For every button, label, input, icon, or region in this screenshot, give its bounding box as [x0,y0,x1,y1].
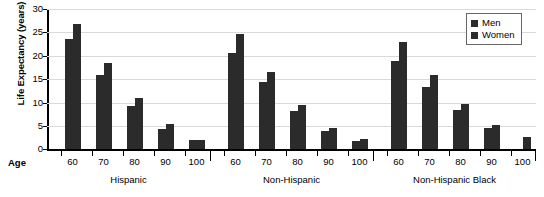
y-axis-tick-label: 25 [32,28,43,38]
x-axis-tick-label: 60 [393,157,404,167]
bar-men [453,110,461,150]
x-axis-tick-mark [255,151,256,156]
life-expectancy-bar-chart: Life Expectancy (years) 051015202530 Age… [0,0,544,197]
bars-layer [47,9,536,149]
bar-women [236,34,244,150]
bar-men [321,131,329,150]
x-axis-tick-mark [511,151,512,156]
bar-women [523,137,531,149]
bar-women [360,139,368,149]
x-axis-tick-mark [61,151,62,156]
bar-women [73,24,81,149]
bar-men [189,140,197,150]
legend-item-men: Men [471,17,515,29]
y-axis-tick-label: 30 [32,4,43,14]
bar-men [391,61,399,150]
x-axis-tick-label: 100 [515,157,531,167]
legend-swatch-icon [471,32,478,39]
bar-men [127,106,135,150]
group-separator [210,151,211,161]
group-separator [373,151,374,161]
group-label: Non-Hispanic [263,175,320,185]
x-axis-tick-mark [387,151,388,156]
x-axis-tick-label: 90 [323,157,334,167]
group-label: Hispanic [110,175,146,185]
group-label: Non-Hispanic Black [413,175,496,185]
x-axis-tick-mark [224,151,225,156]
x-axis-tick-mark [185,151,186,156]
bar-men [484,128,492,150]
x-axis-tick-label: 90 [160,157,171,167]
bar-women [104,63,112,150]
bar-men [96,75,104,150]
x-axis-tick-mark [286,151,287,156]
x-axis-tick-label: 80 [129,157,140,167]
legend-label-men: Men [482,18,500,28]
legend: Men Women [466,13,522,45]
y-axis-tick-label: 20 [32,51,43,61]
bar-men [158,129,166,149]
x-axis-tick-mark [348,151,349,156]
x-axis-tick-label: 100 [352,157,368,167]
bar-men [65,39,73,149]
bar-women [399,42,407,150]
x-axis-tick-label: 80 [455,157,466,167]
bar-women [298,105,306,149]
plot-area: 051015202530 [47,9,536,151]
bar-women [135,98,143,149]
x-axis-area: 60708090100Hispanic60708090100Non-Hispan… [47,151,536,197]
x-axis-tick-label: 70 [261,157,272,167]
legend-label-women: Women [482,30,515,40]
x-axis-tick-label: 60 [230,157,241,167]
bar-women [329,128,337,149]
x-axis-tick-label: 60 [67,157,78,167]
bar-men [422,87,430,150]
bar-women [492,125,500,150]
x-axis-tick-mark [123,151,124,156]
x-axis-tick-label: 80 [292,157,303,167]
bar-women [197,140,205,150]
y-axis-title: Life Expectancy (years) [15,0,26,119]
y-axis-tick-label: 15 [32,74,43,84]
x-axis-tick-label: 90 [486,157,497,167]
x-axis-tick-mark [480,151,481,156]
x-axis-tick-label: 70 [424,157,435,167]
bar-women [461,104,469,149]
bar-men [259,82,267,150]
bar-men [352,141,360,149]
bar-women [166,124,174,149]
x-axis-tick-mark [154,151,155,156]
x-axis-tick-mark [92,151,93,156]
x-axis-tick-mark [317,151,318,156]
x-axis-tick-mark [418,151,419,156]
bar-women [267,72,275,149]
group-separator [535,151,536,161]
x-axis-tick-mark [449,151,450,156]
bar-women [430,75,438,150]
x-axis-title: Age [8,157,26,168]
bar-men [290,111,298,150]
x-axis-tick-label: 100 [189,157,205,167]
legend-swatch-icon [471,20,478,27]
bar-men [228,53,236,149]
x-axis-tick-label: 70 [98,157,109,167]
y-axis-tick-label: 10 [32,98,43,108]
legend-item-women: Women [471,29,515,41]
